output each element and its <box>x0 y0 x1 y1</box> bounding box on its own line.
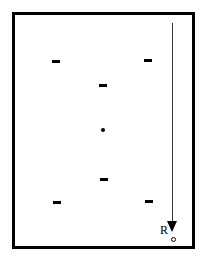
negative-charge-top-right <box>144 59 152 62</box>
negative-charge-bottom-left <box>53 201 61 204</box>
point-r-label: R <box>160 224 168 236</box>
point-r-marker <box>171 237 176 242</box>
negative-charge-top-left <box>52 60 60 63</box>
arrow-shaft <box>172 23 173 223</box>
negative-charge-upper-center <box>99 84 107 87</box>
center-point <box>101 128 105 132</box>
arrow-head-icon <box>167 221 177 232</box>
negative-charge-bottom-right <box>145 200 153 203</box>
negative-charge-lower-center <box>100 178 108 181</box>
